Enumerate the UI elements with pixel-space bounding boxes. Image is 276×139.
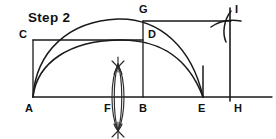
point-label-h: H bbox=[234, 102, 242, 114]
construction-canvas: A F B E H C D G I bbox=[0, 0, 276, 139]
construction-figure: Step 2 bbox=[0, 0, 276, 139]
point-label-f: F bbox=[104, 102, 111, 114]
point-label-a: A bbox=[25, 102, 33, 114]
point-label-d: D bbox=[148, 28, 156, 40]
point-label-i: I bbox=[235, 3, 238, 15]
point-label-g: G bbox=[139, 3, 148, 15]
point-label-e: E bbox=[198, 102, 205, 114]
point-label-b: B bbox=[139, 102, 147, 114]
point-label-c: C bbox=[19, 28, 27, 40]
